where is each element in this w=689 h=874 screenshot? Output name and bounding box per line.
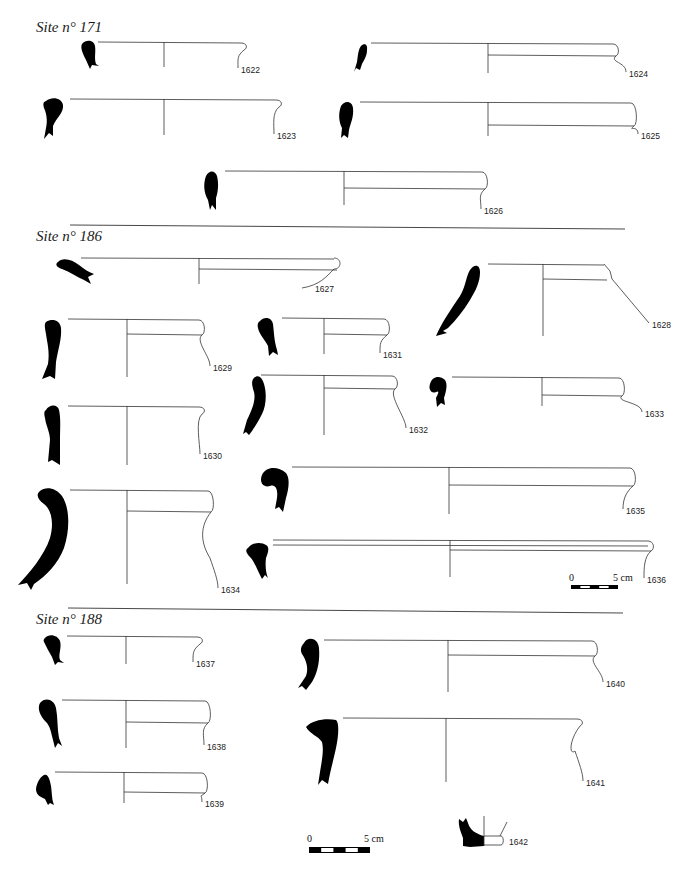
sherd-1642-profile [459, 818, 484, 847]
scale-bar-2-start-label: 0 [307, 833, 312, 844]
sherd-label-1636: 1636 [647, 575, 666, 585]
sherd-1635-wall [623, 468, 635, 509]
sherd-1633-wall [619, 378, 642, 412]
sherd-label-1624: 1624 [629, 69, 648, 79]
sherd-1641-rim-line [343, 718, 577, 719]
sherd-1640-wall [592, 641, 603, 682]
scale-bar-1-start-label: 0 [569, 572, 574, 583]
sherd-label-1638: 1638 [207, 742, 226, 752]
profile-drawings [0, 0, 689, 874]
sherd-1626-rim-line [225, 171, 482, 172]
sherd-label-1634: 1634 [221, 585, 240, 595]
sherd-1626-wall [480, 172, 487, 209]
sherd-label-1625: 1625 [641, 131, 660, 141]
sherd-label-1637: 1637 [196, 659, 215, 669]
sherd-1622-rim-line [98, 42, 241, 43]
scale-bar-1-segment [599, 586, 608, 588]
sherd-1635-rim-line [292, 467, 630, 468]
sherd-1624-wall [613, 44, 626, 72]
sherd-1635-inner-line [449, 485, 633, 486]
sherd-1641-profile [306, 719, 338, 785]
sherd-1636-wall [644, 541, 653, 578]
sherd-label-1630: 1630 [203, 451, 222, 461]
sherd-1628-inner-line [543, 279, 607, 280]
pottery-plate: Site n° 171 Site n° 186 Site n° 188 1622… [0, 0, 689, 874]
sherd-1636-profile [246, 543, 268, 579]
sherd-1627-profile [56, 259, 94, 284]
sherd-1635-profile [261, 468, 289, 512]
site-title-186: Site n° 186 [36, 228, 102, 245]
sherd-1625-profile [339, 102, 353, 138]
sherd-1638-inner-line [126, 722, 208, 723]
sherd-1624-rim-line [371, 43, 613, 44]
sherd-1632-profile [243, 376, 266, 435]
sherd-1632-wall [392, 376, 406, 428]
sherd-1641-wall [571, 719, 583, 781]
sherd-1636-rim-line [273, 540, 648, 541]
scale-bar-2-segment [321, 848, 333, 852]
scale-bar-1-segment [580, 586, 589, 588]
sherd-1639-wall [201, 773, 208, 802]
sherd-1637-profile [44, 635, 64, 665]
sherd-label-1626: 1626 [484, 206, 503, 216]
sherd-label-1628: 1628 [652, 320, 671, 330]
sherd-1637-rim-line [67, 636, 197, 637]
sherd-1630-rim-line [68, 406, 199, 407]
sherd-1626-profile [204, 172, 218, 211]
sherd-1634-rim-line [70, 490, 208, 491]
sherd-label-1623: 1623 [277, 131, 296, 141]
sherd-1629-inner-line [127, 334, 202, 335]
sherd-1640-inner-line [448, 655, 595, 656]
sherd-1630-profile [44, 406, 60, 466]
scale-bar-2 [309, 847, 370, 853]
sherd-label-1627: 1627 [315, 284, 334, 294]
sherd-1634-wall [203, 491, 218, 588]
sherd-1628-profile [436, 266, 480, 336]
sherd-label-1639: 1639 [205, 799, 224, 809]
sherd-label-1640: 1640 [606, 679, 625, 689]
sherd-label-1629: 1629 [213, 363, 232, 373]
sherd-1629-profile [42, 320, 61, 379]
sherd-label-1631: 1631 [383, 350, 402, 360]
scale-bar-2-segment [346, 848, 358, 852]
site-title-188: Site n° 188 [36, 611, 102, 628]
sherd-1642-wall [500, 822, 507, 836]
sherd-1627-rim-line [81, 258, 334, 259]
scale-bar-1-end-label: 5 cm [613, 572, 633, 583]
sherd-1628-wall [604, 264, 649, 323]
sherd-1642-base-outline [484, 836, 503, 845]
sherd-1633-rim-line [452, 377, 619, 378]
section-divider [68, 608, 623, 613]
sherd-1631-wall [380, 319, 389, 353]
sherd-1636-rim-line-2 [273, 545, 648, 546]
sherd-1640-rim-line [324, 640, 592, 641]
section-divider [70, 225, 625, 229]
sherd-1629-rim-line [68, 319, 199, 320]
sherd-1634-profile [18, 488, 68, 590]
sherd-1633-inner-line [542, 395, 622, 396]
sherd-1631-inner-line [324, 334, 387, 335]
sherd-1623-wall [274, 100, 282, 134]
sherd-1626-inner-line [344, 188, 485, 189]
sherd-1628-rim-line [488, 264, 604, 265]
sherd-1629-wall [199, 320, 210, 366]
sherd-1623-profile [43, 98, 63, 139]
sherd-1639-profile [36, 775, 54, 805]
sherd-1625-rim-line [360, 102, 631, 103]
sherd-label-1642: 1642 [509, 837, 528, 847]
sherd-1625-wall [631, 103, 638, 134]
sherd-1639-rim-line [55, 772, 202, 773]
sherd-1632-inner-line [324, 388, 395, 389]
sherd-1638-rim-line [62, 700, 205, 701]
sherd-label-1635: 1635 [626, 506, 645, 516]
sherd-1624-profile [354, 44, 367, 72]
scale-bar-2-end-label: 5 cm [364, 833, 384, 844]
sherd-1631-profile [258, 318, 278, 356]
scale-bar-1 [571, 585, 618, 589]
sherd-label-1633: 1633 [645, 409, 664, 419]
sherd-1624-inner-line [488, 55, 616, 56]
sherd-1627-inner-line [199, 269, 337, 270]
sherd-1622-profile [81, 41, 99, 69]
sherd-1639-inner-line [124, 792, 205, 793]
sherd-1640-profile [298, 639, 319, 690]
